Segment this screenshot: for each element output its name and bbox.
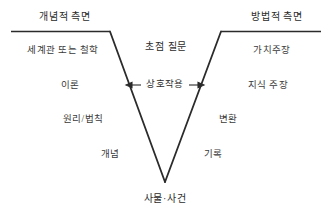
interaction-label: 상호작용	[146, 80, 184, 90]
vertex-events-objects-label: 사물·사건	[144, 194, 186, 204]
left-item-worldview: 세계관 또는 철학	[27, 46, 98, 56]
right-item-value-claims: 가치주장	[253, 46, 291, 56]
right-item-records: 기록	[204, 150, 223, 160]
vee-diagram: 개념적 측면 방법적 측면 초점 질문 상호작용 세계관 또는 철학 이론 원리…	[0, 0, 329, 215]
left-item-concepts: 개념	[101, 150, 120, 160]
left-item-theory: 이론	[61, 81, 80, 91]
conceptual-side-title: 개념적 측면	[39, 12, 90, 22]
right-item-transformations: 변환	[219, 115, 238, 125]
methodological-side-title: 방법적 측면	[251, 12, 302, 22]
right-item-knowledge-claims: 지식 주장	[248, 81, 288, 91]
focus-question-label: 초점 질문	[145, 42, 187, 52]
left-item-principles: 원리/법칙	[63, 115, 104, 125]
vee-diagram-lines	[0, 0, 329, 215]
